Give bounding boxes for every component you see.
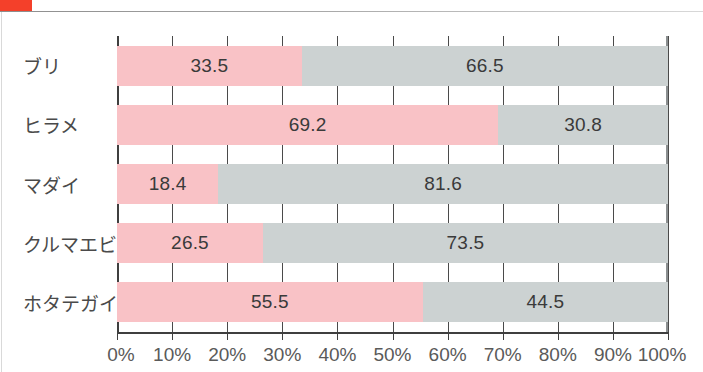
bar-value-label: 73.5 bbox=[447, 232, 485, 254]
category-label: ヒラメ bbox=[23, 105, 79, 145]
bar-segment-series-a: 69.2 bbox=[117, 105, 498, 145]
category-label: ブリ bbox=[23, 46, 61, 86]
bar-segment-series-a: 55.5 bbox=[117, 282, 423, 322]
plot-area: 33.566.569.230.818.481.626.573.555.544.5 bbox=[117, 36, 668, 344]
x-tick-label: 90% bbox=[594, 344, 632, 366]
axis-tick bbox=[337, 332, 338, 340]
axis-tick bbox=[558, 332, 559, 340]
x-tick-label: 30% bbox=[263, 344, 301, 366]
bar-value-label: 30.8 bbox=[564, 114, 602, 136]
bar-segment-series-a: 33.5 bbox=[117, 46, 302, 86]
bar-row: 55.544.5 bbox=[117, 282, 668, 322]
bar-value-label: 44.5 bbox=[527, 291, 565, 313]
bar-segment-series-b: 30.8 bbox=[498, 105, 668, 145]
bar-value-label: 33.5 bbox=[190, 55, 228, 77]
bar-segment-series-a: 26.5 bbox=[117, 223, 263, 263]
category-label: ホタテガイ bbox=[23, 282, 118, 322]
x-axis-tick-labels: 0%10%20%30%40%50%60%70%80%90%100% bbox=[117, 344, 668, 372]
bar-row: 69.230.8 bbox=[117, 105, 668, 145]
x-tick-label: 0% bbox=[107, 344, 134, 366]
category-axis-labels: ブリヒラメマダイクルマエビホタテガイ bbox=[0, 36, 113, 332]
x-tick-label: 50% bbox=[373, 344, 411, 366]
bar-series-group: 33.566.569.230.818.481.626.573.555.544.5 bbox=[117, 36, 668, 332]
x-tick-label: 60% bbox=[429, 344, 467, 366]
x-tick-label: 70% bbox=[484, 344, 522, 366]
x-tick-label: 40% bbox=[318, 344, 356, 366]
bar-segment-series-a: 18.4 bbox=[117, 164, 218, 204]
x-tick-label: 20% bbox=[208, 344, 246, 366]
bar-row: 18.481.6 bbox=[117, 164, 668, 204]
bar-segment-series-b: 66.5 bbox=[302, 46, 668, 86]
bar-row: 33.566.5 bbox=[117, 46, 668, 86]
x-tick-label: 80% bbox=[539, 344, 577, 366]
category-label: マダイ bbox=[23, 164, 80, 204]
gridline bbox=[668, 36, 669, 332]
bar-value-label: 18.4 bbox=[149, 173, 187, 195]
bar-segment-series-b: 73.5 bbox=[263, 223, 668, 263]
axis-tick bbox=[227, 332, 228, 340]
axis-tick bbox=[393, 332, 394, 340]
axis-tick bbox=[117, 332, 118, 340]
bar-value-label: 81.6 bbox=[424, 173, 462, 195]
x-tick-label: 100% bbox=[638, 344, 687, 366]
bar-value-label: 55.5 bbox=[251, 291, 289, 313]
bar-value-label: 26.5 bbox=[171, 232, 209, 254]
plot-frame: 33.566.569.230.818.481.626.573.555.544.5 bbox=[117, 36, 668, 332]
bar-value-label: 66.5 bbox=[466, 55, 504, 77]
accent-tab-marker bbox=[0, 0, 32, 11]
category-label: クルマエビ bbox=[23, 223, 117, 263]
axis-tick bbox=[613, 332, 614, 340]
bar-value-label: 69.2 bbox=[289, 114, 327, 136]
axis-tick bbox=[503, 332, 504, 340]
stacked-bar-chart: ブリヒラメマダイクルマエビホタテガイ 33.566.569.230.818.48… bbox=[0, 12, 703, 372]
axis-tick bbox=[172, 332, 173, 340]
axis-tick bbox=[282, 332, 283, 340]
page-root: ブリヒラメマダイクルマエビホタテガイ 33.566.569.230.818.48… bbox=[0, 0, 703, 372]
bar-segment-series-b: 81.6 bbox=[218, 164, 668, 204]
x-tick-label: 10% bbox=[153, 344, 191, 366]
axis-tick bbox=[448, 332, 449, 340]
bar-segment-series-b: 44.5 bbox=[423, 282, 668, 322]
axis-tick bbox=[668, 332, 669, 340]
bar-row: 26.573.5 bbox=[117, 223, 668, 263]
